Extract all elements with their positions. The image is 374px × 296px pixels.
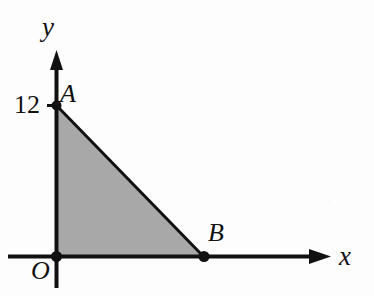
point-b-dot (199, 251, 210, 262)
figure-canvas (0, 0, 374, 296)
y-axis-arrowhead (50, 50, 63, 70)
geometry-figure: y x A B O 12 (0, 0, 374, 296)
y-axis-tick-label-12: 12 (14, 92, 40, 118)
y-axis-label: y (42, 14, 54, 41)
origin-dot (51, 251, 62, 262)
point-a-label: A (60, 81, 76, 107)
origin-label: O (31, 258, 50, 284)
x-axis-label: x (339, 243, 351, 270)
point-b-label: B (208, 220, 224, 246)
x-axis-arrowhead (309, 249, 331, 264)
